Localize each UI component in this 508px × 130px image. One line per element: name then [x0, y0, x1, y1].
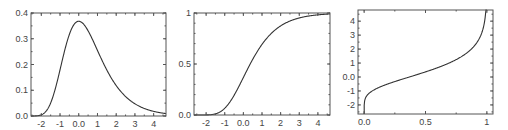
y-tick-label: 0.5	[178, 59, 191, 69]
x-tick-label: 2	[114, 119, 119, 129]
x-tick-label: 3	[132, 119, 137, 129]
x-tick-label: 0.0	[72, 119, 85, 129]
quantile-chart: 0.00.51-2-10.01234	[342, 10, 493, 127]
curve-line	[194, 14, 330, 115]
x-tick-label: 0.0	[237, 118, 250, 128]
axes-frame	[358, 10, 493, 114]
x-tick-label: 0.5	[419, 117, 432, 127]
axes-frame	[194, 13, 330, 115]
x-tick-label: 0.0	[358, 117, 371, 127]
y-tick-label: 0.4	[15, 8, 28, 18]
x-tick-label: 1	[259, 118, 264, 128]
y-tick-label: 0.0	[342, 72, 355, 82]
y-tick-label: 0.0	[15, 111, 28, 121]
x-tick-label: 3	[297, 118, 302, 128]
x-tick-label: -1	[56, 119, 64, 129]
y-tick-label: 2	[350, 44, 355, 54]
x-tick-label: -2	[37, 119, 45, 129]
pdf-chart: -2-10.012340.00.10.20.30.4	[15, 8, 166, 129]
curve-line	[364, 10, 487, 114]
y-tick-label: 4	[350, 16, 355, 26]
gumbel-distribution-figure: -2-10.012340.00.10.20.30.4 -2-10.012340.…	[0, 0, 508, 130]
y-tick-label: -1	[347, 86, 355, 96]
y-tick-label: 0.1	[15, 85, 28, 95]
y-tick-label: 0.0	[178, 110, 191, 120]
y-tick-label: 0.3	[15, 34, 28, 44]
x-tick-label: 2	[278, 118, 283, 128]
x-tick-label: -2	[202, 118, 210, 128]
y-tick-label: 0.2	[15, 60, 28, 70]
y-tick-label: 1	[186, 8, 191, 18]
x-tick-label: 4	[315, 118, 320, 128]
y-tick-label: 3	[350, 30, 355, 40]
y-tick-label: 1	[350, 58, 355, 68]
x-tick-label: 1	[95, 119, 100, 129]
y-tick-label: -2	[347, 100, 355, 110]
x-tick-label: -1	[221, 118, 229, 128]
x-tick-label: 4	[151, 119, 156, 129]
cdf-chart: -2-10.012340.00.51	[178, 8, 330, 128]
x-tick-label: 1	[484, 117, 489, 127]
curve-line	[31, 21, 166, 116]
